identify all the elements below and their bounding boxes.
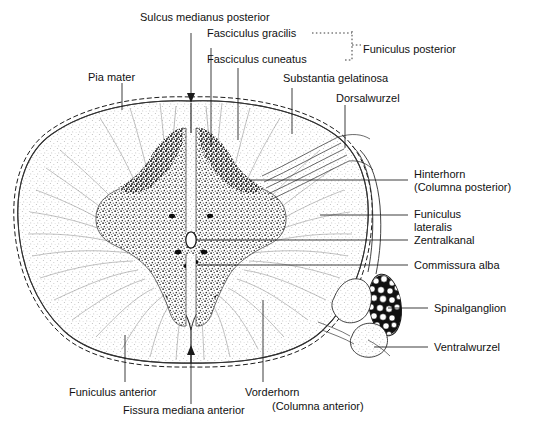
label-vorderhorn: Vorderhorn xyxy=(245,386,299,399)
label-funiculus-anterior: Funiculus anterior xyxy=(69,386,156,399)
label-spinalganglion: Spinalganglion xyxy=(434,302,506,315)
label-hinterhorn-subtitle: (Columna posterior) xyxy=(414,181,511,194)
label-fissura-mediana-anterior: Fissura mediana anterior xyxy=(123,404,245,417)
spinal-cord-figure: Sulcus medianus posterior Fasciculus gra… xyxy=(0,0,540,427)
label-commissura-alba: Commissura alba xyxy=(414,259,500,272)
label-fasciculus-gracilis: Fasciculus gracilis xyxy=(207,27,296,40)
label-ventralwurzel: Ventralwurzel xyxy=(434,341,500,354)
label-hinterhorn: Hinterhorn xyxy=(414,168,465,181)
label-fasciculus-cuneatus: Fasciculus cuneatus xyxy=(207,53,307,66)
label-sulcus-medianus-posterior: Sulcus medianus posterior xyxy=(140,11,270,24)
label-zentralkanal: Zentralkanal xyxy=(414,234,475,247)
label-vorderhorn-subtitle: (Columna anterior) xyxy=(272,400,364,413)
label-pia-mater: Pia mater xyxy=(88,71,135,84)
label-funiculus-lateralis-line1: Funiculus xyxy=(414,208,461,221)
label-dorsalwurzel: Dorsalwurzel xyxy=(336,92,400,105)
label-funiculus-lateralis-line2: lateralis xyxy=(414,221,452,234)
zentralkanal-central-canal xyxy=(186,232,196,248)
label-funiculus-posterior: Funiculus posterior xyxy=(363,43,456,56)
label-substantia-gelatinosa: Substantia gelatinosa xyxy=(283,72,388,85)
funiculus-posterior-bracket xyxy=(345,31,361,60)
